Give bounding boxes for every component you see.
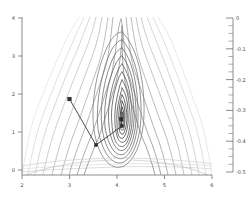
- x-axis: 2 3 4 5 6: [20, 175, 213, 188]
- colorbar-tick-label-0: 0: [236, 15, 239, 21]
- colorbar-tick-label-5: -0.5: [236, 169, 246, 175]
- path-marker-step-2: [120, 124, 123, 127]
- colorbar-tick-label-1: -0.1: [236, 46, 246, 52]
- x-tick-label-3: 5: [163, 182, 166, 188]
- path-marker-step-1: [94, 143, 97, 146]
- colorbar: 0 -0.1 -0.2 -0.3 -0.4 -0.5: [226, 15, 246, 175]
- contour-plot-figure: 2 3 4 5 6 0 1 2 3 4: [0, 0, 252, 199]
- x-tick-label-2: 4: [115, 182, 119, 188]
- colorbar-tick-label-4: -0.4: [236, 138, 246, 144]
- y-tick-label-4: 4: [12, 15, 16, 21]
- path-marker-start: [68, 97, 72, 101]
- y-tick-label-0: 0: [12, 167, 15, 173]
- contour-lines-group: [22, 17, 212, 175]
- y-axis: 0 1 2 3 4: [12, 15, 22, 175]
- colorbar-tick-label-3: -0.3: [236, 107, 246, 113]
- y-tick-label-2: 2: [12, 91, 15, 97]
- path-marker-end: [119, 117, 123, 121]
- x-tick-label-1: 3: [68, 182, 71, 188]
- y-tick-label-1: 1: [12, 129, 15, 135]
- y-tick-label-3: 3: [12, 53, 15, 59]
- x-tick-label-0: 2: [20, 182, 23, 188]
- x-tick-label-4: 6: [210, 182, 213, 188]
- colorbar-tick-label-2: -0.2: [236, 77, 246, 83]
